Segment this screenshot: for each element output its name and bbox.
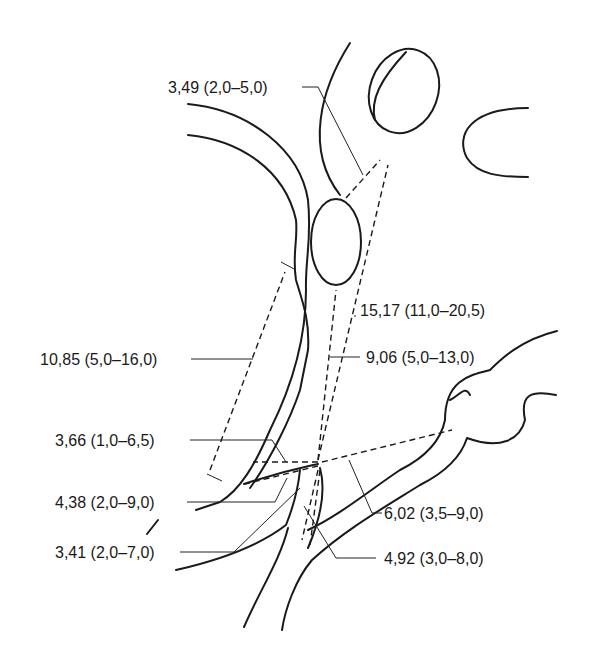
tick-10-85-top — [281, 262, 296, 270]
measure-3-49 — [346, 160, 380, 198]
label-6-02: 6,02 (3,5–9,0) — [384, 505, 484, 522]
label-3-41: 3,41 (2,0–7,0) — [55, 544, 155, 561]
small-tick — [147, 520, 158, 534]
label-3-66: 3,66 (1,0–6,5) — [55, 432, 155, 449]
leader-3-66 — [190, 440, 286, 462]
measure-9-06 — [318, 290, 336, 460]
tick-10-85-bottom — [207, 474, 222, 481]
c-shape — [463, 108, 528, 177]
upper-vessel-outer-wall — [188, 104, 309, 510]
label-9-06: 9,06 (5,0–13,0) — [366, 349, 475, 366]
label-15-17: 15,17 (11,0–20,5) — [360, 302, 485, 319]
measure-4-38 — [245, 466, 318, 484]
label-4-38: 4,38 (2,0–9,0) — [55, 494, 155, 511]
leader-3-49 — [302, 87, 363, 175]
anatomical-diagram: 3,49 (2,0–5,0) 15,17 (11,0–20,5) 10,85 (… — [0, 0, 589, 648]
bulge-loop — [450, 391, 470, 400]
label-10-85: 10,85 (5,0–16,0) — [40, 351, 157, 368]
measurement-labels: 3,49 (2,0–5,0) 15,17 (11,0–20,5) 10,85 (… — [40, 79, 485, 567]
upper-arc-right — [374, 52, 406, 120]
label-4-92: 4,92 (3,0–8,0) — [384, 550, 484, 567]
upper-vessel-inner-wall — [188, 135, 308, 488]
label-3-49: 3,49 (2,0–5,0) — [168, 79, 268, 96]
anatomy-outlines — [147, 39, 557, 630]
lower-left-stem — [244, 528, 288, 627]
leader-4-38 — [187, 478, 287, 502]
leader-lines — [180, 87, 382, 558]
middle-ellipse — [311, 199, 361, 285]
leader-3-41 — [180, 488, 300, 552]
